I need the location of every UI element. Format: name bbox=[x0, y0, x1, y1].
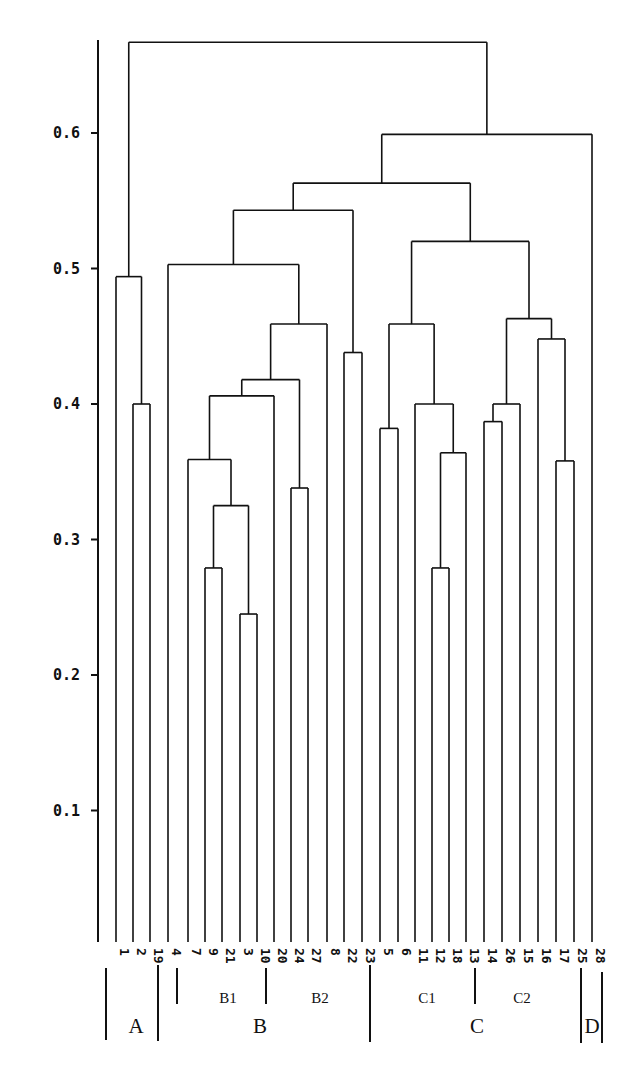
group-label-b2: B2 bbox=[311, 990, 329, 1006]
leaf-label: 17 bbox=[557, 948, 572, 964]
leaf-label: 23 bbox=[363, 948, 378, 964]
leaf-label: 2 bbox=[134, 948, 149, 956]
leaf-label: 22 bbox=[345, 948, 360, 964]
dendrogram-chart: 0.10.20.30.40.50.6 121947921310202427822… bbox=[0, 0, 636, 1070]
leaf-label: 11 bbox=[416, 948, 431, 964]
group-label-d: D bbox=[584, 1014, 599, 1038]
group-label-c1: C1 bbox=[418, 990, 436, 1006]
leaf-label: 14 bbox=[485, 948, 500, 964]
leaf-label: 19 bbox=[151, 948, 166, 964]
y-tick-label: 0.3 bbox=[53, 531, 80, 549]
leaf-label: 21 bbox=[223, 948, 238, 964]
group-label-b1: B1 bbox=[219, 990, 237, 1006]
leaf-label: 9 bbox=[206, 948, 221, 956]
leaf-label: 20 bbox=[275, 948, 290, 964]
leaf-label: 1 bbox=[117, 948, 132, 956]
leaf-label: 16 bbox=[539, 948, 554, 964]
y-tick-label: 0.1 bbox=[53, 802, 80, 820]
dendrogram-tree bbox=[116, 42, 592, 942]
leaf-label: 6 bbox=[399, 948, 414, 956]
y-axis: 0.10.20.30.40.50.6 bbox=[53, 40, 98, 942]
leaf-label: 3 bbox=[241, 948, 256, 956]
leaf-label: 7 bbox=[189, 948, 204, 956]
leaf-label: 13 bbox=[467, 948, 482, 964]
leaf-label: 26 bbox=[503, 948, 518, 964]
leaf-label: 27 bbox=[309, 948, 324, 964]
leaf-label: 12 bbox=[433, 948, 448, 964]
y-tick-label: 0.5 bbox=[53, 260, 80, 278]
group-label-c2: C2 bbox=[513, 990, 531, 1006]
leaf-label: 5 bbox=[381, 948, 396, 956]
group-label-c: C bbox=[470, 1014, 484, 1038]
leaf-label: 28 bbox=[593, 948, 608, 964]
group-label-a: A bbox=[128, 1014, 144, 1038]
leaf-label: 10 bbox=[258, 948, 273, 964]
leaf-label: 24 bbox=[292, 948, 307, 964]
y-tick-label: 0.4 bbox=[53, 395, 80, 413]
leaf-label: 25 bbox=[575, 948, 590, 964]
leaf-label: 18 bbox=[450, 948, 465, 964]
group-label-b: B bbox=[253, 1014, 267, 1038]
leaf-label: 8 bbox=[328, 948, 343, 956]
leaf-labels: 1219479213102024278222356111218131426151… bbox=[117, 948, 608, 964]
y-tick-label: 0.6 bbox=[53, 124, 80, 142]
y-tick-label: 0.2 bbox=[53, 666, 80, 684]
leaf-label: 15 bbox=[521, 948, 536, 964]
leaf-label: 4 bbox=[169, 948, 184, 956]
group-labels: ABCDB1B2C1C2 bbox=[128, 990, 599, 1038]
